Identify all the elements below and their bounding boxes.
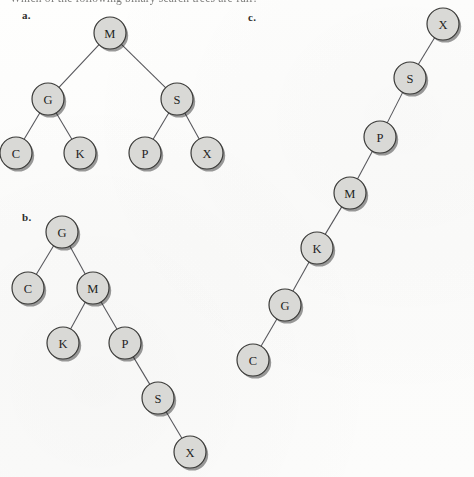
tree-node: P xyxy=(364,121,398,156)
tree-node: P xyxy=(109,327,143,362)
node-label: P xyxy=(376,131,383,145)
tree-node: X xyxy=(427,8,461,43)
tree-node: K xyxy=(64,137,98,172)
tree-edge xyxy=(184,112,199,140)
node-label: K xyxy=(312,242,321,256)
tree-node: K xyxy=(47,327,81,362)
tree-edge xyxy=(121,44,167,89)
tree-c: XSPMKGC xyxy=(237,8,461,379)
tree-edge xyxy=(325,206,343,235)
tree-edge xyxy=(56,112,73,140)
part-label-b: b. xyxy=(22,211,31,223)
tree-edge xyxy=(357,150,373,180)
tree-b: GCMKPSX xyxy=(12,216,208,471)
tree-node: M xyxy=(334,177,368,212)
node-label: P xyxy=(141,147,148,161)
tree-node: K xyxy=(301,232,335,267)
tree-node: S xyxy=(142,382,176,417)
tree-edge xyxy=(387,91,403,123)
tree-node: M xyxy=(94,17,128,52)
tree-edge xyxy=(166,411,183,439)
tree-node: G xyxy=(32,83,66,118)
tree-edge xyxy=(36,245,54,275)
tree-a: MGSCKPX xyxy=(0,17,225,172)
tree-node: X xyxy=(174,436,208,471)
tree-node: S xyxy=(161,83,195,118)
binary-search-tree-figures: MGSCKPXGCMKPSXXSPMKGC xyxy=(0,0,474,477)
node-label: M xyxy=(87,282,98,296)
node-label: M xyxy=(104,27,115,41)
part-label-c: c. xyxy=(248,11,256,23)
node-label: X xyxy=(202,147,211,161)
tree-edge xyxy=(58,44,99,88)
tree-node: S xyxy=(394,62,428,97)
textbook-page: Which of the following binary search tre… xyxy=(0,0,474,477)
node-label: M xyxy=(344,187,355,201)
node-label: C xyxy=(12,147,21,161)
tree-edge xyxy=(69,245,85,275)
part-label-a: a. xyxy=(22,9,31,21)
tree-node: C xyxy=(12,272,46,307)
tree-node: G xyxy=(269,289,303,324)
node-label: X xyxy=(185,446,194,460)
node-label: G xyxy=(43,93,52,107)
tree-edge xyxy=(101,301,118,330)
tree-node: X xyxy=(191,137,225,172)
tree-node: G xyxy=(46,216,80,251)
tree-edge xyxy=(292,261,309,292)
tree-edge xyxy=(24,112,41,140)
tree-node: P xyxy=(129,137,163,172)
node-label: S xyxy=(173,93,180,107)
node-label: C xyxy=(24,282,33,296)
tree-node: M xyxy=(77,272,111,307)
tree-edge xyxy=(70,301,86,330)
tree-edge xyxy=(133,356,151,385)
node-label: P xyxy=(121,337,128,351)
node-label: K xyxy=(75,147,84,161)
tree-node: C xyxy=(0,137,34,172)
tree-edge xyxy=(153,112,170,140)
node-label: G xyxy=(280,299,289,313)
node-label: K xyxy=(58,337,67,351)
tree-edge xyxy=(261,318,278,347)
node-label: S xyxy=(406,72,413,86)
node-label: G xyxy=(57,226,66,240)
node-label: X xyxy=(438,18,447,32)
node-label: C xyxy=(249,354,258,368)
node-label: S xyxy=(154,392,161,406)
tree-edge xyxy=(418,37,435,65)
tree-node: C xyxy=(237,344,271,379)
